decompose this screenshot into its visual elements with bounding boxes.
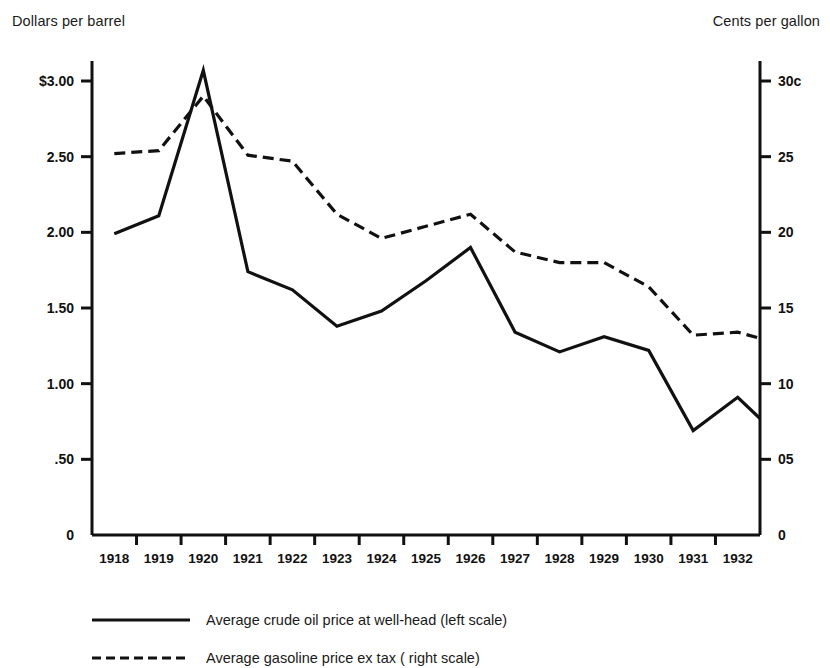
- left-axis-title: Dollars per barrel: [12, 13, 125, 29]
- x-tick-1926: 1926: [448, 551, 493, 566]
- solid-line-key: [92, 614, 190, 626]
- x-tick-1928: 1928: [537, 551, 582, 566]
- x-tick-1925: 1925: [404, 551, 449, 566]
- right-axis-title: Cents per gallon: [713, 13, 820, 29]
- left-tick-3: 1.50: [47, 300, 74, 316]
- x-tick-1923: 1923: [315, 551, 360, 566]
- left-tick-4: 1.00: [47, 376, 74, 392]
- right-tick-5: 05: [778, 451, 794, 467]
- left-tick-1: 2.50: [47, 149, 74, 165]
- left-tick-0: $3.00: [39, 73, 74, 89]
- right-tick-6: 0: [778, 527, 786, 543]
- x-tick-1921: 1921: [226, 551, 271, 566]
- legend-label-gasoline: Average gasoline price ex tax ( right sc…: [206, 650, 480, 666]
- x-tick-1918: 1918: [92, 551, 137, 566]
- x-tick-1931: 1931: [671, 551, 716, 566]
- x-tick-1927: 1927: [493, 551, 538, 566]
- left-tick-5: .50: [55, 451, 74, 467]
- right-tick-2: 20: [778, 224, 794, 240]
- dashed-line-key: [92, 652, 190, 664]
- series-line-gasoline: [114, 96, 760, 338]
- x-tick-1924: 1924: [359, 551, 404, 566]
- x-tick-1919: 1919: [137, 551, 182, 566]
- x-tick-1922: 1922: [270, 551, 315, 566]
- x-tick-1920: 1920: [181, 551, 226, 566]
- right-tick-1: 25: [778, 149, 794, 165]
- legend-item-crude-oil: Average crude oil price at well-head (le…: [92, 610, 507, 630]
- left-tick-6: 0: [66, 527, 74, 543]
- legend-label-crude-oil: Average crude oil price at well-head (le…: [206, 612, 507, 628]
- x-tick-1930: 1930: [626, 551, 671, 566]
- left-tick-2: 2.00: [47, 224, 74, 240]
- legend-item-gasoline: Average gasoline price ex tax ( right sc…: [92, 648, 480, 668]
- right-tick-4: 10: [778, 376, 794, 392]
- right-tick-3: 15: [778, 300, 794, 316]
- series-line-crude-oil: [114, 70, 760, 430]
- x-tick-1929: 1929: [582, 551, 627, 566]
- right-tick-0: 30c: [778, 73, 801, 89]
- x-tick-1932: 1932: [715, 551, 760, 566]
